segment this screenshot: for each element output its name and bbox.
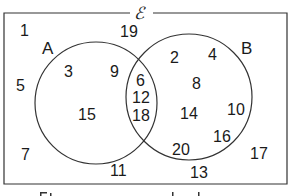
set-b-label: B bbox=[241, 39, 252, 58]
element-b-only: 10 bbox=[227, 101, 245, 118]
caption-glyph-tops bbox=[40, 187, 240, 196]
element-a-only: 9 bbox=[110, 63, 119, 80]
element-outside: 7 bbox=[21, 146, 30, 163]
universal-set-symbol: ℰ bbox=[134, 4, 146, 23]
element-outside: 13 bbox=[190, 164, 208, 181]
element-intersection: 6 bbox=[136, 72, 145, 89]
element-b-only: 16 bbox=[213, 128, 231, 145]
element-outside: 19 bbox=[120, 23, 138, 40]
element-outside: 11 bbox=[110, 162, 127, 179]
element-b-only: 8 bbox=[192, 75, 201, 92]
caption-clipped bbox=[40, 187, 240, 196]
element-b-only: 14 bbox=[180, 105, 198, 122]
element-a-only: 3 bbox=[64, 63, 73, 80]
venn-diagram: ℰ A B 1 19 5 7 11 13 17 3 9 15 6 12 18 2… bbox=[0, 0, 291, 196]
element-outside: 17 bbox=[250, 145, 268, 162]
element-outside: 5 bbox=[16, 77, 25, 94]
element-outside: 1 bbox=[20, 22, 29, 39]
element-b-only: 4 bbox=[208, 46, 217, 63]
element-intersection: 18 bbox=[132, 107, 150, 124]
element-a-only: 15 bbox=[78, 106, 96, 123]
set-a-label: A bbox=[42, 39, 54, 58]
element-b-only: 20 bbox=[172, 141, 190, 158]
element-intersection: 12 bbox=[132, 89, 150, 106]
element-b-only: 2 bbox=[170, 49, 179, 66]
